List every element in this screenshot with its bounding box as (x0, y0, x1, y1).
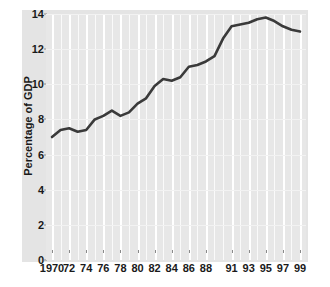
y-axis-tick-label: 6 (24, 149, 44, 160)
x-axis-tick-label: 76 (97, 263, 109, 274)
x-axis-tick-mark (206, 250, 207, 253)
x-axis-tick-label: 78 (114, 263, 126, 274)
x-axis-tick-label: 84 (166, 263, 178, 274)
x-axis-tick-mark (172, 250, 173, 253)
x-axis-tick-label: 80 (131, 263, 143, 274)
y-axis-tick-label: 8 (24, 114, 44, 125)
x-axis-tick-label: 88 (200, 263, 212, 274)
x-axis-tick-mark (283, 250, 284, 253)
x-axis-tick-mark (155, 250, 156, 253)
x-axis-tick-mark (69, 250, 70, 253)
y-axis-tick-label: 14 (24, 9, 44, 20)
y-axis-tick-label: 4 (24, 184, 44, 195)
x-axis-tick-mark (232, 250, 233, 253)
x-axis-tick-layer (46, 250, 306, 260)
x-axis-tick-mark (120, 250, 121, 253)
series-line-chart (46, 14, 306, 260)
x-axis-tick-label: 91 (225, 263, 237, 274)
chart-figure: Percentage of GDP 02468101214 1970727476… (0, 0, 330, 287)
x-axis-tick-label: 74 (80, 263, 92, 274)
x-axis-tick-label: 93 (243, 263, 255, 274)
x-axis-label-layer: 19707274767880828486889193959799 (46, 263, 306, 279)
y-axis-tick-label: 2 (24, 219, 44, 230)
x-axis-tick-mark (249, 250, 250, 253)
plot-area (46, 14, 306, 260)
x-axis-tick-label: 1970 (40, 263, 64, 274)
series-line (52, 18, 300, 137)
x-axis-tick-mark (300, 250, 301, 253)
x-axis-tick-label: 97 (277, 263, 289, 274)
x-axis-tick-mark (86, 250, 87, 253)
x-axis-tick-mark (103, 250, 104, 253)
x-axis-tick-label: 86 (183, 263, 195, 274)
y-axis-tick-label: 12 (24, 44, 44, 55)
x-axis-tick-mark (266, 250, 267, 253)
y-axis-tick-label: 10 (24, 79, 44, 90)
x-axis-tick-mark (138, 250, 139, 253)
x-axis-tick-label: 99 (294, 263, 306, 274)
x-axis-tick-label: 82 (148, 263, 160, 274)
x-axis-tick-mark (189, 250, 190, 253)
x-axis-tick-label: 72 (63, 263, 75, 274)
y-axis-tick-layer: 02468101214 (22, 14, 44, 260)
plot-wrapper (46, 14, 306, 260)
x-axis-tick-mark (52, 250, 53, 253)
x-axis-tick-label: 95 (260, 263, 272, 274)
